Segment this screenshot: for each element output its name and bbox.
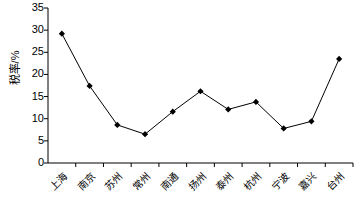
data-point-marker xyxy=(86,83,92,89)
data-point-marker xyxy=(59,31,65,37)
data-point-marker xyxy=(114,122,120,128)
data-point-marker xyxy=(225,106,231,112)
series-markers xyxy=(59,31,342,138)
data-point-marker xyxy=(308,118,314,124)
x-axis-ticks xyxy=(76,163,353,167)
y-axis-ticks xyxy=(44,8,48,163)
chart-plot-area xyxy=(0,0,358,200)
data-point-marker xyxy=(336,56,342,62)
chart-container: 税率/% 05101520253035 上海南京苏州常州南通扬州泰州杭州宁波嘉兴… xyxy=(0,0,358,200)
series-line xyxy=(62,34,339,135)
